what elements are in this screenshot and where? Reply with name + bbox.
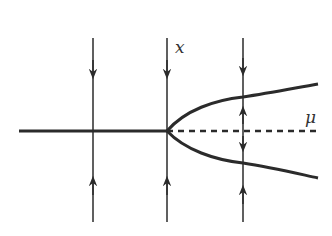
pitchfork-bifurcation-diagram: x μ [0,0,332,236]
x-axis-label: x [175,37,185,57]
mu-axis-label: μ [305,107,316,127]
